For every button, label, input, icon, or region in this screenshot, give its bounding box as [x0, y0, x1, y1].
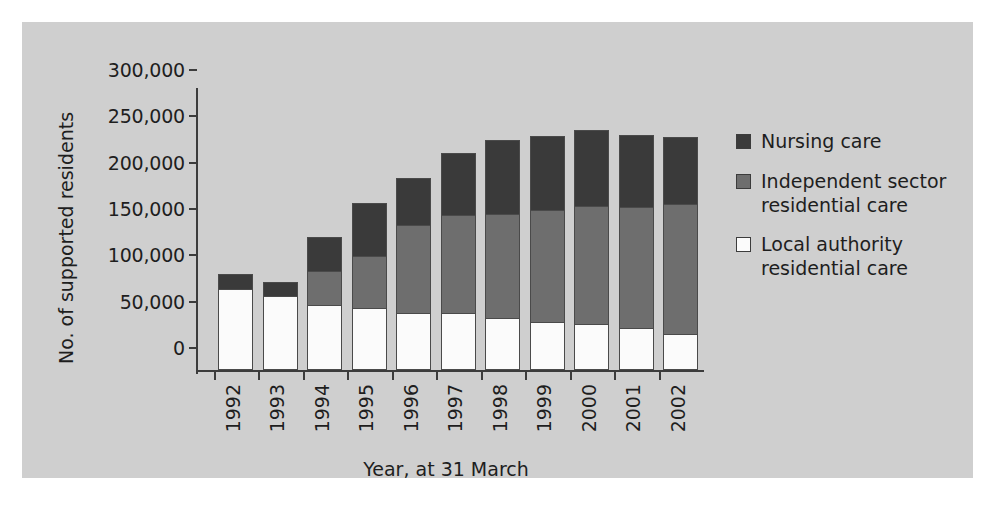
bar-segment — [619, 207, 654, 330]
x-axis-tick — [525, 372, 527, 380]
x-axis-tick — [481, 372, 483, 380]
bar-segment — [352, 308, 387, 370]
x-axis-tick-label: 1999 — [533, 384, 555, 454]
bar-segment — [485, 318, 520, 370]
chart-bar[interactable] — [441, 153, 476, 370]
x-axis-tick — [214, 372, 216, 380]
x-axis-tick-label: 2002 — [667, 384, 689, 454]
x-axis-tick — [570, 372, 572, 380]
legend-swatch-icon — [736, 134, 751, 149]
x-axis-tick — [392, 372, 394, 380]
y-axis-tick-label: 50,000 — [120, 291, 185, 313]
legend-item-label: Independent sector residential care — [761, 170, 986, 218]
bar-segment — [574, 324, 609, 370]
chart-bar[interactable] — [663, 137, 698, 370]
legend-item[interactable]: Nursing care — [736, 130, 986, 154]
bar-segment — [530, 322, 565, 370]
chart-bar[interactable] — [307, 237, 342, 370]
bar-segment — [619, 328, 654, 370]
chart-panel: No. of supported residents 050,000100,00… — [22, 22, 973, 478]
bar-segment — [396, 313, 431, 370]
bar-segment — [485, 214, 520, 320]
y-axis-title: No. of supported residents — [55, 98, 77, 378]
x-axis-tick — [436, 372, 438, 380]
bar-segment — [218, 289, 253, 370]
bar-segment — [441, 313, 476, 370]
x-axis-title: Year, at 31 March — [196, 458, 696, 480]
bar-segment — [441, 153, 476, 216]
y-axis-tick-label: 150,000 — [108, 198, 185, 220]
y-axis-tick-label: 200,000 — [108, 152, 185, 174]
x-axis-tick — [303, 372, 305, 380]
legend-item-label: Local authority residential care — [761, 233, 986, 281]
chart-bar[interactable] — [530, 136, 565, 370]
x-axis-tick-label: 1992 — [222, 384, 244, 454]
bar-segment — [441, 215, 476, 315]
x-axis-tick-label: 1995 — [355, 384, 377, 454]
legend-item[interactable]: Local authority residential care — [736, 233, 986, 281]
legend-item-label: Nursing care — [761, 130, 882, 154]
x-axis-tick-label: 1994 — [311, 384, 333, 454]
x-axis-tick-label: 1998 — [489, 384, 511, 454]
bar-segment — [352, 256, 387, 310]
bar-segment — [663, 334, 698, 370]
chart-bar[interactable] — [485, 140, 520, 370]
y-axis-tick — [189, 69, 197, 71]
chart-bar[interactable] — [396, 178, 431, 370]
bar-segment — [396, 225, 431, 314]
bar-segment — [307, 271, 342, 307]
x-axis-tick-label: 1997 — [444, 384, 466, 454]
bar-segment — [307, 237, 342, 272]
bar-segment — [619, 135, 654, 208]
y-axis-tick-label: 100,000 — [108, 244, 185, 266]
bar-segment — [352, 203, 387, 258]
bar-segment — [396, 178, 431, 226]
x-axis-tick-label: 1993 — [266, 384, 288, 454]
x-axis-line — [196, 370, 704, 372]
chart-bar[interactable] — [574, 130, 609, 370]
y-axis-tick-label: 250,000 — [108, 105, 185, 127]
bar-segment — [530, 136, 565, 212]
x-axis-tick — [659, 372, 661, 380]
bar-segment — [218, 274, 253, 291]
chart-page: No. of supported residents 050,000100,00… — [0, 0, 997, 508]
chart-legend: Nursing careIndependent sector residenti… — [736, 130, 986, 297]
chart-bar[interactable] — [263, 282, 298, 370]
chart-bar[interactable] — [619, 135, 654, 370]
x-axis-tick — [347, 372, 349, 380]
x-axis-tick-label: 2001 — [622, 384, 644, 454]
plot-area — [196, 92, 696, 370]
bar-segment — [485, 140, 520, 215]
legend-swatch-icon — [736, 174, 751, 189]
x-axis-tick-label: 1996 — [400, 384, 422, 454]
chart-bar[interactable] — [352, 203, 387, 370]
x-axis-tick — [614, 372, 616, 380]
x-axis-tick-label: 2000 — [578, 384, 600, 454]
bar-segment — [530, 210, 565, 323]
y-axis-tick-label: 300,000 — [108, 59, 185, 81]
bar-segment — [574, 206, 609, 326]
bar-segment — [263, 296, 298, 370]
bar-segment — [663, 204, 698, 336]
legend-item[interactable]: Independent sector residential care — [736, 170, 986, 218]
bar-segment — [307, 305, 342, 370]
chart-bar[interactable] — [218, 274, 253, 370]
bar-segment — [663, 137, 698, 206]
bar-segment — [574, 130, 609, 207]
legend-swatch-icon — [736, 237, 751, 252]
y-axis-tick-label: 0 — [173, 337, 185, 359]
x-axis-tick — [258, 372, 260, 380]
